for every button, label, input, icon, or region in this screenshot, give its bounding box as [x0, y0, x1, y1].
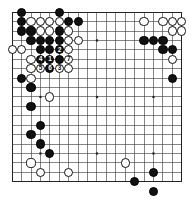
black-stone	[55, 8, 64, 17]
white-stone	[139, 17, 148, 26]
black-stone	[17, 74, 26, 83]
black-stone	[26, 83, 35, 92]
move-number-label-7: 7	[64, 55, 73, 64]
white-stone	[36, 168, 45, 177]
black-stone	[17, 26, 26, 35]
white-stone	[26, 158, 35, 167]
white-stone	[121, 158, 130, 167]
move-number-label-6: 6	[45, 64, 54, 73]
black-stone	[26, 36, 35, 45]
black-stone	[74, 17, 83, 26]
move-number-label-4: 4	[36, 55, 45, 64]
black-stone	[36, 121, 45, 130]
black-stone	[26, 130, 35, 139]
black-stone	[149, 187, 158, 196]
move-number-label-2: 2	[55, 45, 64, 54]
black-stone	[55, 55, 64, 64]
white-stone	[74, 36, 83, 45]
move-number-label-3: 3	[55, 64, 64, 73]
white-stone	[26, 64, 35, 73]
black-stone	[149, 168, 158, 177]
white-stone	[36, 26, 45, 35]
black-stone	[55, 36, 64, 45]
black-stone	[139, 36, 148, 45]
white-stone	[26, 55, 35, 64]
move-number-label-1: 1	[45, 55, 54, 64]
white-stone	[168, 26, 177, 35]
white-stone	[26, 74, 35, 83]
black-stone	[158, 36, 167, 45]
black-stone	[168, 74, 177, 83]
white-stone	[26, 17, 35, 26]
white-stone	[55, 17, 64, 26]
white-stone	[168, 17, 177, 26]
black-stone	[26, 26, 35, 35]
black-stone	[55, 26, 64, 35]
white-stone	[64, 26, 73, 35]
black-stone	[149, 36, 158, 45]
white-stone	[158, 17, 167, 26]
go-diagram: 1234567	[0, 0, 194, 201]
black-stone	[26, 102, 35, 111]
white-stone	[45, 92, 54, 101]
black-stone	[17, 8, 26, 17]
white-stone	[168, 55, 177, 64]
black-stone	[36, 36, 45, 45]
white-stone	[45, 26, 54, 35]
white-stone	[177, 26, 186, 35]
black-stone	[36, 139, 45, 148]
black-stone	[158, 45, 167, 54]
move-number-label-5: 5	[36, 64, 45, 73]
